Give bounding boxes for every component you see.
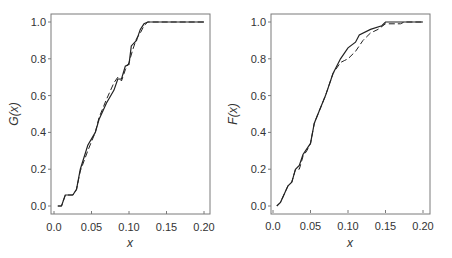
solid-cdf-line (58, 22, 204, 206)
y-axis-title: F(x) (226, 103, 240, 124)
y-tick-label: 0.6 (31, 90, 46, 102)
chart-canvas: 0.00.20.40.60.81.0 0.00.050.100.150.20 x… (0, 0, 452, 258)
y-tick-label: 0.4 (251, 126, 266, 138)
y-tick-label: 0.2 (251, 163, 266, 175)
y-tick-label: 0.2 (31, 163, 46, 175)
dashed-cdf-line (277, 22, 423, 206)
plot-frame (51, 14, 210, 214)
x-tick-label: 0.0 (46, 221, 61, 233)
f-cdf-panel: 0.00.20.40.60.81.0 0.00.050.100.150.20 x… (226, 14, 434, 250)
x-tick-label: 0.10 (118, 221, 139, 233)
x-tick-label: 0.05 (81, 221, 102, 233)
y-tick-label: 0.0 (251, 200, 266, 212)
y-tick-label: 0.6 (251, 90, 266, 102)
x-tick-label: 0.05 (300, 220, 321, 232)
y-tick-label: 0.4 (31, 126, 46, 138)
plot-lines (58, 22, 204, 206)
x-tick-label: 0.15 (156, 221, 177, 233)
y-tick-label: 1.0 (251, 16, 266, 28)
y-tick-label: 0.8 (31, 53, 46, 65)
y-axis-title: G(x) (7, 102, 21, 125)
y-axis-ticks: 0.00.20.40.60.81.0 (31, 16, 51, 212)
plot-frame (271, 14, 430, 214)
y-axis-ticks: 0.00.20.40.60.81.0 (251, 16, 271, 212)
y-tick-label: 0.0 (31, 200, 46, 212)
x-tick-label: 0.15 (375, 220, 396, 232)
x-tick-label: 0.20 (193, 221, 214, 233)
y-tick-label: 1.0 (31, 16, 46, 28)
g-cdf-panel: 0.00.20.40.60.81.0 0.00.050.100.150.20 x… (7, 14, 215, 250)
y-tick-label: 0.8 (251, 53, 266, 65)
solid-cdf-line (277, 22, 423, 206)
x-tick-label: 0.0 (265, 220, 280, 232)
x-axis-ticks: 0.00.050.100.150.20 (265, 210, 433, 232)
x-axis-title: x (346, 236, 354, 250)
x-tick-label: 0.20 (412, 220, 433, 232)
x-axis-title: x (126, 236, 134, 250)
x-tick-label: 0.10 (337, 220, 358, 232)
plot-lines (277, 22, 423, 206)
